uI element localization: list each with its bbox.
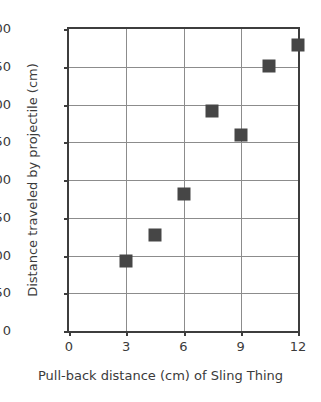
tick-mark-x: [298, 331, 300, 336]
data-point-marker: [292, 38, 305, 51]
y-tick-label: 300: [0, 98, 11, 111]
tick-mark-y: [64, 142, 69, 144]
y-tick-label: 50: [0, 286, 11, 299]
y-tick-label: 150: [0, 211, 11, 224]
tick-mark-x: [241, 331, 243, 336]
y-tick-label: 100: [0, 249, 11, 262]
tick-mark-x: [126, 331, 128, 336]
y-tick-label: 250: [0, 135, 11, 148]
tick-mark-x: [69, 331, 71, 336]
x-tick-label: 6: [164, 340, 204, 353]
y-axis-title: Distance traveled by projectile (cm): [22, 27, 44, 333]
plot-area: [67, 27, 300, 333]
x-axis-title: Pull-back distance (cm) of Sling Thing: [0, 368, 321, 383]
scatter-plot-figure: 050100150200250300350400 036912 Distance…: [0, 0, 321, 402]
tick-mark-y: [64, 293, 69, 295]
x-tick-label: 9: [221, 340, 261, 353]
tick-mark-y: [64, 180, 69, 182]
tick-mark-x: [184, 331, 186, 336]
data-point-marker: [206, 105, 219, 118]
y-tick-label: 400: [0, 22, 11, 35]
tick-mark-y: [64, 256, 69, 258]
data-point-marker: [263, 59, 276, 72]
x-tick-label: 12: [278, 340, 318, 353]
data-point-marker: [234, 129, 247, 142]
tick-mark-y: [64, 67, 69, 69]
x-tick-label: 0: [49, 340, 89, 353]
gridline-vertical: [241, 29, 242, 331]
x-tick-label: 3: [106, 340, 146, 353]
gridline-vertical: [126, 29, 127, 331]
gridline-vertical: [184, 29, 185, 331]
data-point-marker: [177, 187, 190, 200]
y-tick-label: 200: [0, 173, 11, 186]
y-tick-label: 0: [0, 324, 11, 337]
data-point-marker: [148, 229, 161, 242]
data-point-marker: [120, 254, 133, 267]
tick-mark-y: [64, 29, 69, 31]
y-tick-label: 350: [0, 60, 11, 73]
tick-mark-y: [64, 218, 69, 220]
tick-mark-y: [64, 105, 69, 107]
